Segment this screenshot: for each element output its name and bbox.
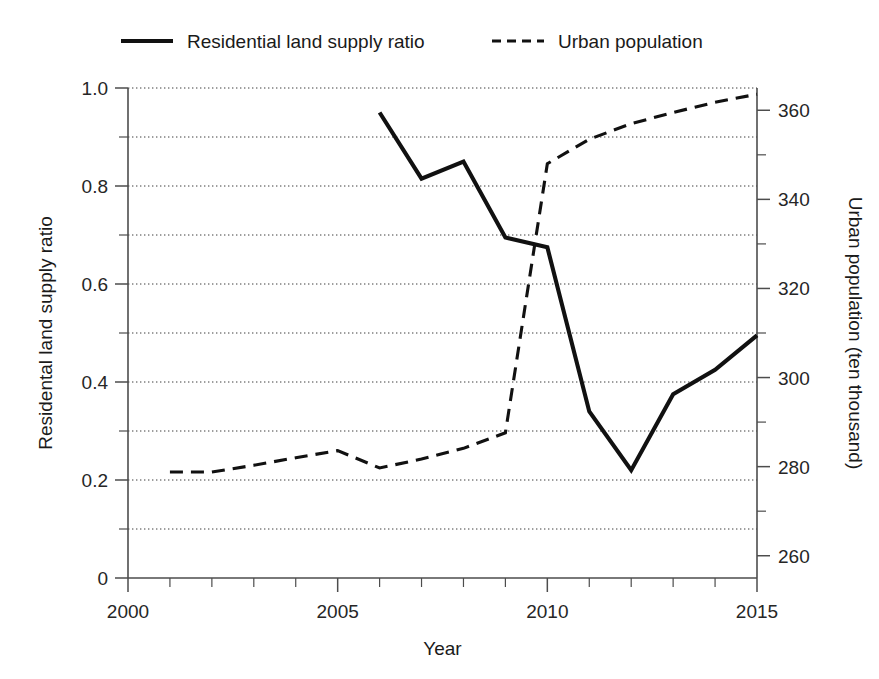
y2-tick-label: 280 — [778, 457, 810, 478]
y-axis-title: Residental land supply ratio — [35, 216, 56, 449]
legend-label: Residential land supply ratio — [187, 31, 425, 52]
y2-tick-label: 260 — [778, 546, 810, 567]
x-tick-label: 2015 — [736, 601, 778, 622]
y2-tick-label: 340 — [778, 189, 810, 210]
data-series — [170, 94, 757, 472]
y-tick-label: 0.6 — [82, 274, 108, 295]
series-residential-land-supply-ratio — [380, 113, 757, 471]
chart-figure: Residential land supply ratioUrban popul… — [0, 0, 879, 679]
y2-tick-label: 300 — [778, 368, 810, 389]
dual-axis-line-chart: Residential land supply ratioUrban popul… — [0, 0, 879, 679]
y-tick-label: 0.8 — [82, 176, 108, 197]
y2-tick-label: 320 — [778, 278, 810, 299]
y-tick-label: 0 — [97, 568, 108, 589]
y-tick-label: 1.0 — [82, 78, 108, 99]
y-tick-label: 0.4 — [82, 372, 109, 393]
x-tick-label: 2000 — [107, 601, 149, 622]
x-axis-title: Year — [423, 638, 462, 659]
gridlines — [128, 88, 757, 529]
x-tick-label: 2010 — [526, 601, 568, 622]
legend-label: Urban population — [558, 31, 703, 52]
x-tick-label: 2005 — [317, 601, 359, 622]
series-urban-population — [170, 94, 757, 472]
y2-axis-title: Urban population (ten thousand) — [845, 197, 866, 470]
tick-marks — [115, 88, 770, 592]
tick-labels: 00.20.40.60.81.0260280300320340360200020… — [82, 78, 810, 622]
y-tick-label: 0.2 — [82, 470, 108, 491]
chart-legend: Residential land supply ratioUrban popul… — [121, 31, 703, 52]
y2-tick-label: 360 — [778, 100, 810, 121]
axis-lines — [128, 88, 757, 578]
